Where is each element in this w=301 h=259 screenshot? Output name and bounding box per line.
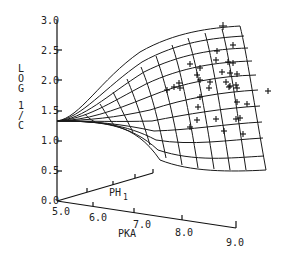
svg-text:9.0: 9.0 bbox=[226, 237, 244, 248]
ph-axis bbox=[57, 173, 153, 201]
pka-axis-label: PKA bbox=[118, 228, 136, 239]
z-tick-labels: 3.0 2.5 2.0 1.5 1.0 0.5 0.0 bbox=[41, 15, 59, 206]
svg-text:C: C bbox=[18, 120, 24, 131]
svg-text:2.5: 2.5 bbox=[41, 45, 59, 56]
surface-plot: 3.0 2.5 2.0 1.5 1.0 0.5 0.0 L O G 1 / C … bbox=[0, 0, 301, 259]
ph-axis-subscript: 1 bbox=[123, 193, 128, 202]
svg-text:1.5: 1.5 bbox=[41, 105, 59, 116]
svg-text:0.0: 0.0 bbox=[41, 195, 59, 206]
pka-tick-labels: 5.0 6.0 7.0 8.0 9.0 bbox=[52, 206, 244, 248]
svg-text:8.0: 8.0 bbox=[175, 227, 193, 238]
svg-text:5.0: 5.0 bbox=[52, 206, 70, 217]
svg-text:6.0: 6.0 bbox=[89, 212, 107, 223]
wireframe-surface bbox=[57, 26, 266, 171]
svg-text:3.0: 3.0 bbox=[41, 15, 59, 26]
z-axis-title: L O G 1 / C bbox=[18, 63, 24, 131]
data-markers bbox=[164, 22, 271, 137]
ph-axis-label: PH bbox=[109, 187, 121, 198]
svg-text:0.5: 0.5 bbox=[41, 165, 59, 176]
svg-text:G: G bbox=[18, 83, 24, 94]
svg-text:2.0: 2.0 bbox=[41, 75, 59, 86]
svg-text:1.0: 1.0 bbox=[41, 135, 59, 146]
